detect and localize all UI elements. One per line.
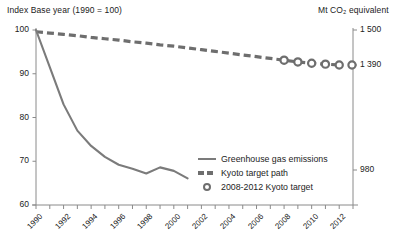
right-axis-ticklabel: 1 390 (360, 59, 400, 69)
right-axis-ticklabel: 1 500 (360, 24, 400, 34)
chart-container: Index Base year (1990 = 100) Mt CO₂ equi… (0, 0, 404, 244)
legend-item-emissions: Greenhouse gas emissions (196, 152, 328, 166)
legend-label: Greenhouse gas emissions (218, 154, 328, 164)
left-axis-ticklabel: 60 (5, 199, 29, 209)
legend-label: Kyoto target path (218, 168, 288, 178)
left-axis-ticklabel: 80 (5, 112, 29, 122)
kyoto-target-marker (308, 60, 315, 67)
circle-marker-swatch-icon (196, 183, 218, 191)
right-axis-ticklabel: 980 (360, 164, 400, 174)
legend-item-target-path: Kyoto target path (196, 166, 328, 180)
chart-legend: Greenhouse gas emissions Kyoto target pa… (196, 152, 328, 194)
kyoto-target-marker-axis (348, 61, 355, 68)
left-axis-ticklabel: 100 (5, 24, 29, 34)
kyoto-target-marker (322, 61, 329, 68)
emissions-line (36, 30, 188, 178)
solid-line-swatch-icon (196, 158, 218, 160)
left-axis-ticklabel: 90 (5, 68, 29, 78)
kyoto-target-marker (294, 58, 301, 65)
kyoto-target-marker (280, 57, 287, 64)
legend-item-kyoto-target: 2008-2012 Kyoto target (196, 180, 328, 194)
dashed-line-swatch-icon (196, 171, 218, 174)
kyoto-target-marker (336, 61, 343, 68)
left-axis-ticklabel: 70 (5, 155, 29, 165)
plot-area (0, 0, 404, 244)
legend-label: 2008-2012 Kyoto target (218, 182, 313, 192)
